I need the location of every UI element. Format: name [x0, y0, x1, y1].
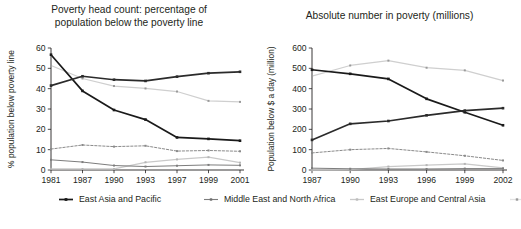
legend-swatch-east-europe-and-central-asia — [349, 195, 365, 204]
data-point-marker — [50, 168, 52, 170]
y-axis-title: Population below $ a day (million) — [266, 46, 276, 171]
data-point-marker — [239, 70, 242, 73]
data-point-marker — [311, 68, 314, 71]
data-point-marker — [82, 161, 84, 163]
legend-swatch-east-asia-and-pacific — [58, 195, 74, 204]
y-tick-label: 200 — [292, 124, 307, 134]
data-point-marker — [113, 85, 115, 87]
data-point-marker — [144, 80, 147, 83]
data-point-marker — [145, 145, 147, 147]
data-point-marker — [208, 156, 210, 158]
legend-item-south-asia[interactable]: South Asia — [509, 192, 521, 206]
data-point-marker — [239, 164, 241, 166]
legend-item-east-europe-and-central-asia[interactable]: East Europe and Central Asia — [349, 192, 509, 206]
data-point-marker — [464, 109, 467, 112]
data-point-marker — [81, 90, 84, 93]
data-point-marker — [113, 78, 116, 81]
data-point-marker — [208, 149, 210, 151]
x-tick-label: 1997 — [167, 175, 186, 185]
data-point-marker — [387, 147, 389, 149]
data-point-marker — [176, 165, 178, 167]
series-line-latin-america-and-the-caribbean — [312, 148, 503, 160]
y-tick-label: 10 — [36, 145, 46, 155]
legend-grid: East Asia and Pacific Middle East and No… — [58, 192, 521, 206]
legend-item-east-asia-and-pacific[interactable]: East Asia and Pacific — [58, 192, 203, 206]
data-point-marker — [387, 120, 390, 123]
y-tick-label: 60 — [36, 43, 46, 53]
series-line-south-asia — [312, 61, 503, 81]
series-line-south-asia — [51, 65, 240, 101]
chart-title-right-line1: Absolute number in poverty (millions) — [258, 10, 521, 23]
data-point-marker — [50, 84, 53, 87]
legend-swatch-south-asia — [509, 195, 521, 204]
data-point-marker — [425, 98, 428, 101]
series-line-east-asia-and-pacific — [312, 70, 503, 126]
chart-panel-absolute-number: Absolute number in poverty (millions) 01… — [258, 0, 521, 186]
data-point-marker — [464, 155, 466, 157]
data-point-marker — [113, 109, 116, 112]
x-tick-label: 1999 — [199, 175, 218, 185]
data-point-marker — [145, 166, 147, 168]
data-point-marker — [464, 163, 466, 165]
data-point-marker — [311, 75, 313, 77]
x-tick-label: 1981 — [41, 175, 60, 185]
series-line-sub-saharan-africa — [51, 72, 240, 86]
data-point-marker — [239, 162, 241, 164]
data-point-marker — [311, 167, 313, 169]
data-point-marker — [81, 75, 84, 78]
series-line-east-asia-and-pacific — [51, 55, 240, 141]
legend-label-east-europe-and-central-asia: East Europe and Central Asia — [370, 194, 485, 204]
data-point-marker — [82, 144, 84, 146]
data-point-marker — [311, 139, 314, 142]
data-point-marker — [349, 123, 352, 126]
data-point-marker — [464, 69, 466, 71]
y-tick-label: 40 — [36, 84, 46, 94]
x-tick-label: 1999 — [455, 175, 474, 185]
data-point-marker — [349, 64, 351, 66]
x-tick-label: 2001 — [230, 175, 249, 185]
data-point-marker — [176, 158, 178, 160]
legend-item-middle-east-and-north-africa[interactable]: Middle East and North Africa — [203, 192, 349, 206]
data-point-marker — [176, 136, 179, 139]
data-point-marker — [176, 75, 179, 78]
data-point-marker — [349, 73, 352, 76]
series-line-middle-east-and-north-africa — [312, 168, 503, 169]
data-point-marker — [176, 150, 178, 152]
x-tick-label: 2002 — [493, 175, 512, 185]
data-point-marker — [425, 114, 428, 117]
data-point-marker — [426, 164, 428, 166]
chart-title-left-line1: Poverty head count: percentage of — [0, 4, 258, 17]
data-point-marker — [145, 87, 147, 89]
data-point-marker — [349, 149, 351, 151]
chart-panel-poverty-head-count: Poverty head count: percentage of popula… — [0, 0, 258, 186]
x-tick-label: 1996 — [417, 175, 436, 185]
x-tick-label: 1993 — [379, 175, 398, 185]
series-line-sub-saharan-africa — [312, 108, 503, 140]
data-point-marker — [207, 138, 210, 141]
legend-label-middle-east-and-north-africa: Middle East and North Africa — [224, 194, 335, 204]
data-point-marker — [387, 168, 389, 170]
y-tick-label: 600 — [292, 43, 307, 53]
data-point-marker — [144, 118, 147, 121]
data-point-marker — [311, 152, 313, 154]
x-tick-label: 1990 — [104, 175, 123, 185]
data-point-marker — [502, 124, 505, 127]
data-point-marker — [82, 168, 84, 170]
data-point-marker — [349, 168, 351, 170]
data-point-marker — [82, 78, 84, 80]
y-axis-title: % population below poverty line — [6, 50, 16, 168]
data-point-marker — [113, 146, 115, 148]
y-tick-label: 500 — [292, 63, 307, 73]
x-tick-label: 1987 — [73, 175, 92, 185]
chart-title-left-line2: population below the poverty line — [0, 17, 258, 30]
data-point-marker — [50, 53, 53, 56]
chart-svg-right: 0100200300400500600198719901993199619992… — [258, 0, 521, 186]
legend-swatch-middle-east-and-north-africa — [203, 195, 219, 204]
data-point-marker — [426, 151, 428, 153]
data-point-marker — [502, 159, 504, 161]
data-point-marker — [502, 168, 504, 170]
data-point-marker — [426, 67, 428, 69]
x-tick-label: 1993 — [136, 175, 155, 185]
legend-label-east-asia-and-pacific: East Asia and Pacific — [79, 194, 161, 204]
data-point-marker — [387, 60, 389, 62]
